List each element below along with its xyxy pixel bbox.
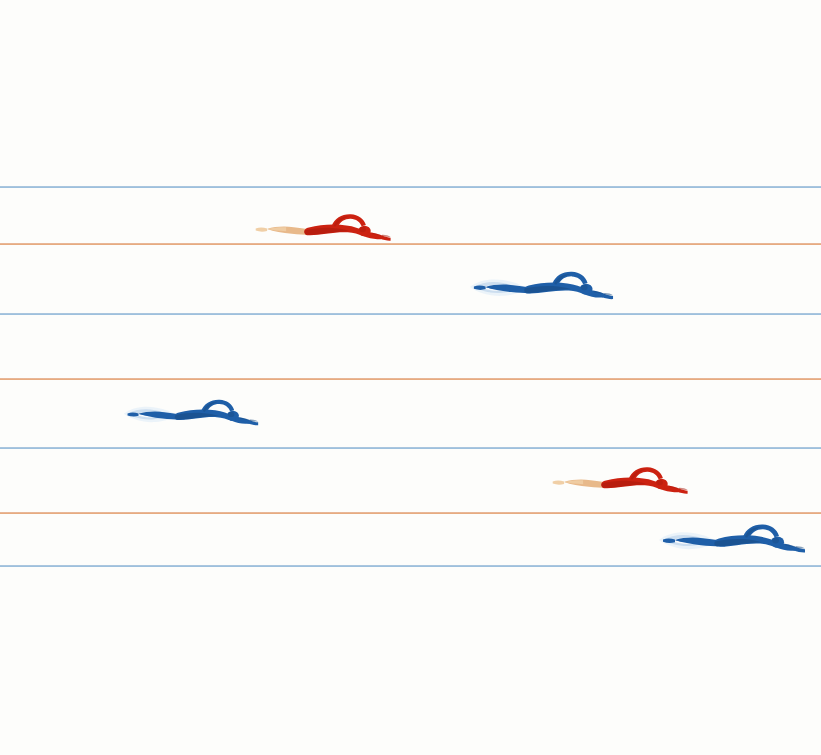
lane-line-1: [0, 186, 821, 188]
swimmer-2: [468, 261, 615, 310]
swimmer-silhouette: [547, 456, 690, 504]
swimmer-1: [250, 203, 393, 251]
recovery-arm: [743, 525, 779, 538]
swimmer-5: [657, 513, 807, 563]
swimmer-3: [122, 389, 260, 435]
swimmer-silhouette: [250, 203, 393, 251]
recovery-arm: [552, 272, 587, 285]
swimmer-silhouette: [468, 261, 615, 310]
recovery-arm: [332, 214, 366, 227]
lane-line-5: [0, 447, 821, 449]
swimmer-silhouette: [657, 513, 807, 563]
lane-line-2: [0, 243, 821, 245]
lane-line-3: [0, 313, 821, 315]
pool-scene: [0, 0, 821, 755]
recovery-arm: [629, 467, 663, 480]
recovery-arm: [201, 400, 234, 412]
swimmer-silhouette: [122, 389, 260, 435]
lane-line-4: [0, 378, 821, 380]
swimmer-4: [547, 456, 690, 504]
lane-line-7: [0, 565, 821, 567]
